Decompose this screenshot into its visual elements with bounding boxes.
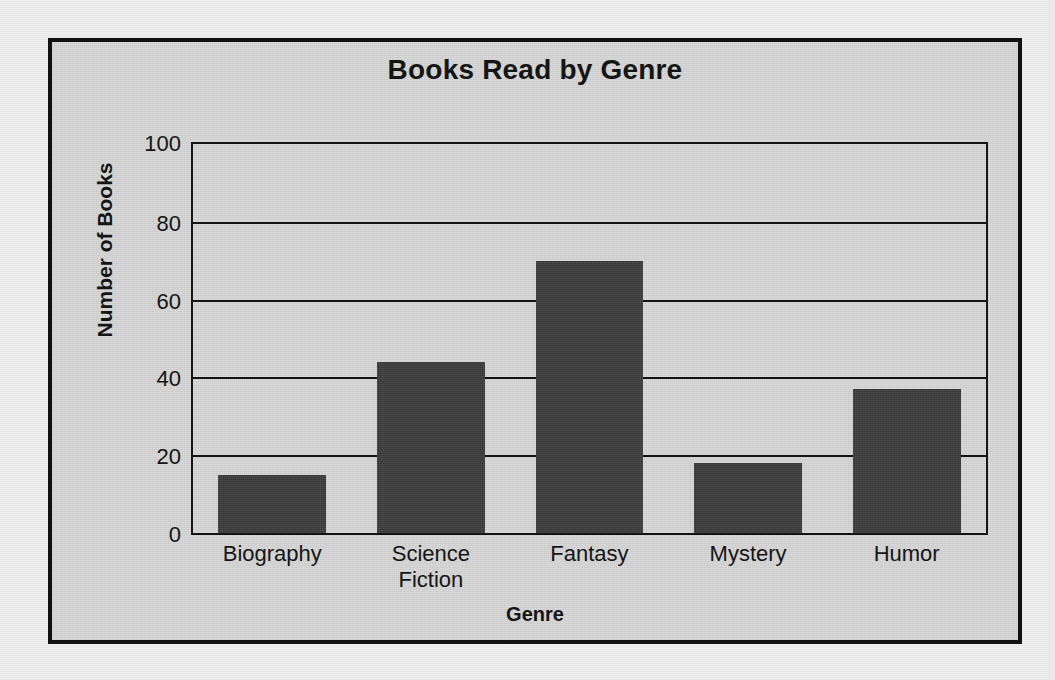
x-axis-title: Genre (52, 603, 1018, 626)
y-tick-label-80: 80 (157, 211, 181, 237)
y-tick-label-20: 20 (157, 444, 181, 470)
bar-slot (510, 144, 669, 533)
y-tick-label-100: 100 (144, 131, 181, 157)
y-tick-label-40: 40 (157, 366, 181, 392)
bar-slot (669, 144, 828, 533)
bar-slot (352, 144, 511, 533)
page-root: Books Read by Genre Number of Books 100 … (0, 0, 1055, 680)
bar-science-fiction[interactable] (377, 362, 485, 533)
bar-humor[interactable] (853, 389, 961, 533)
bar-fantasy[interactable] (536, 261, 644, 533)
y-axis-title: Number of Books (93, 135, 117, 365)
x-tick-label-science-fiction: Science Fiction (352, 533, 511, 592)
x-tick-label-mystery: Mystery (669, 533, 828, 592)
y-tick-label-60: 60 (157, 289, 181, 315)
chart-title: Books Read by Genre (52, 54, 1018, 86)
bars-layer (193, 144, 986, 533)
x-tick-labels: Biography Science Fiction Fantasy Myster… (193, 533, 986, 592)
x-tick-label-biography: Biography (193, 533, 352, 592)
chart-figure-frame: Books Read by Genre Number of Books 100 … (48, 38, 1022, 644)
x-tick-label-fantasy: Fantasy (510, 533, 669, 592)
y-tick-label-0: 0 (169, 522, 181, 548)
bar-mystery[interactable] (694, 463, 802, 533)
bar-biography[interactable] (218, 475, 326, 533)
plot-area: 100 80 60 40 20 0 (191, 142, 988, 535)
bar-slot (193, 144, 352, 533)
x-tick-label-humor: Humor (827, 533, 986, 592)
bar-slot (827, 144, 986, 533)
